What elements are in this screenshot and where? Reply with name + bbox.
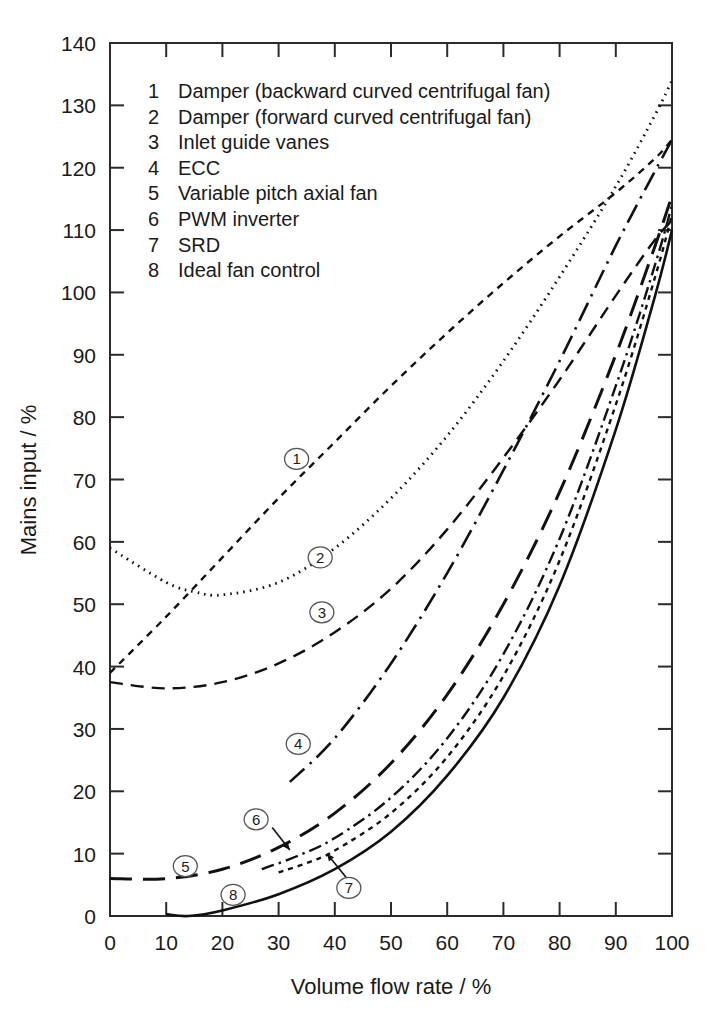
y-tick-label-90: 90 xyxy=(73,344,96,367)
x-tick-label-10: 10 xyxy=(155,931,178,954)
marker-label-2: 2 xyxy=(316,549,324,566)
legend-label-5: Variable pitch axial fan xyxy=(178,182,378,204)
y-tick-label-110: 110 xyxy=(63,219,96,242)
marker-label-3: 3 xyxy=(318,604,326,621)
annotation-marker-4: 4 xyxy=(286,733,310,754)
legend-item-5: 5Variable pitch axial fan xyxy=(148,182,378,204)
marker-label-8: 8 xyxy=(229,886,237,903)
y-tick-label-140: 140 xyxy=(61,32,96,55)
legend-number-8: 8 xyxy=(148,259,159,281)
legend-label-3: Inlet guide vanes xyxy=(178,131,329,153)
legend-label-1: Damper (backward curved centrifugal fan) xyxy=(178,80,550,102)
x-tick-label-20: 20 xyxy=(211,931,234,954)
x-tick-label-80: 80 xyxy=(548,931,571,954)
legend-number-2: 2 xyxy=(148,106,159,128)
legend-label-7: SRD xyxy=(178,234,220,256)
annotation-marker-5: 5 xyxy=(173,856,197,877)
chart-figure: 0102030405060708090100 01020304050607080… xyxy=(0,0,709,1020)
legend-number-1: 1 xyxy=(148,80,159,102)
legend-label-2: Damper (forward curved centrifugal fan) xyxy=(178,106,531,128)
legend-number-4: 4 xyxy=(148,157,159,179)
marker-label-4: 4 xyxy=(294,735,302,752)
y-tick-label-120: 120 xyxy=(61,157,96,180)
legend-label-4: ECC xyxy=(178,157,220,179)
x-axis-title: Volume flow rate / % xyxy=(291,974,492,999)
legend-number-5: 5 xyxy=(148,182,159,204)
y-tick-label-50: 50 xyxy=(73,593,96,616)
x-tick-label-60: 60 xyxy=(436,931,459,954)
line-chart-svg: 0102030405060708090100 01020304050607080… xyxy=(0,0,709,1020)
marker-label-5: 5 xyxy=(181,858,189,875)
annotation-marker-3: 3 xyxy=(310,602,334,623)
legend-item-1: 1Damper (backward curved centrifugal fan… xyxy=(148,80,550,102)
annotation-marker-7: 7 xyxy=(337,877,361,898)
x-tick-label-30: 30 xyxy=(267,931,290,954)
y-tick-label-80: 80 xyxy=(73,406,96,429)
y-tick-label-70: 70 xyxy=(73,469,96,492)
legend-number-7: 7 xyxy=(148,234,159,256)
y-axis-title: Mains input / % xyxy=(16,405,41,555)
x-tick-label-0: 0 xyxy=(104,931,116,954)
legend-item-4: 4ECC xyxy=(148,157,220,179)
annotation-marker-8: 8 xyxy=(221,884,245,905)
legend-label-8: Ideal fan control xyxy=(178,259,320,281)
y-tick-label-30: 30 xyxy=(73,718,96,741)
x-tick-label-100: 100 xyxy=(654,931,689,954)
x-tick-label-40: 40 xyxy=(323,931,346,954)
y-tick-label-130: 130 xyxy=(61,94,96,117)
marker-label-6: 6 xyxy=(252,811,260,828)
y-tick-label-40: 40 xyxy=(73,656,96,679)
legend-number-3: 3 xyxy=(148,131,159,153)
annotation-marker-6: 6 xyxy=(244,809,268,830)
annotation-marker-2: 2 xyxy=(308,547,332,568)
legend-item-2: 2Damper (forward curved centrifugal fan) xyxy=(148,106,531,128)
chart-background xyxy=(0,0,709,1020)
x-tick-label-70: 70 xyxy=(492,931,515,954)
x-tick-label-50: 50 xyxy=(379,931,402,954)
marker-label-1: 1 xyxy=(292,450,300,467)
annotation-marker-1: 1 xyxy=(285,448,309,469)
legend-number-6: 6 xyxy=(148,208,159,230)
y-tick-label-60: 60 xyxy=(73,531,96,554)
legend-item-7: 7SRD xyxy=(148,234,220,256)
y-tick-label-100: 100 xyxy=(61,281,96,304)
y-tick-label-0: 0 xyxy=(84,905,96,928)
x-tick-label-90: 90 xyxy=(604,931,627,954)
legend-label-6: PWM inverter xyxy=(178,208,299,230)
y-tick-label-20: 20 xyxy=(73,780,96,803)
y-tick-label-10: 10 xyxy=(73,843,96,866)
marker-label-7: 7 xyxy=(345,879,353,896)
